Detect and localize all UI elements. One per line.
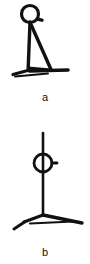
figure-a-foot-left bbox=[13, 70, 30, 75]
figure-a-brace bbox=[31, 25, 51, 70]
figure-b-base-front-leg bbox=[14, 222, 25, 229]
figure-b-drawing bbox=[0, 130, 90, 242]
figure-b-base-brace bbox=[30, 222, 73, 224]
figure-b-base-left-leg bbox=[24, 215, 43, 222]
figure-panel-b: b bbox=[0, 130, 90, 264]
figure-a-drawing bbox=[0, 0, 90, 88]
figure-a-foot-right bbox=[30, 70, 69, 71]
figure-b-caption: b bbox=[0, 246, 90, 259]
figure-sheet: a b bbox=[0, 0, 90, 264]
figure-a-head-tab-icon bbox=[37, 19, 42, 20]
figure-panel-a: a bbox=[0, 0, 90, 110]
figure-a-caption: a bbox=[0, 91, 90, 104]
figure-a-post bbox=[28, 22, 30, 68]
